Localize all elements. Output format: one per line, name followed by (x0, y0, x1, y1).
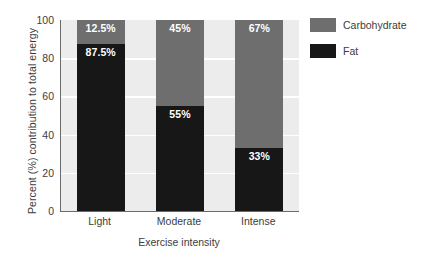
x-axis-title: Exercise intensity (60, 236, 298, 248)
bar-segment-value-label: 33% (235, 151, 283, 163)
bar-segment-fat: 55% (156, 106, 204, 211)
chart-figure: Percent (%) contribution to total energy… (0, 0, 423, 258)
bar-segment-value-label: 45% (156, 23, 204, 35)
bar-segment-fat: 87.5% (77, 44, 125, 211)
bar-segment-value-label: 12.5% (77, 23, 125, 35)
bar-segment-carbohydrate: 12.5% (77, 20, 125, 44)
bar-group: 12.5% 87.5% 45% 55% 67% 33% (61, 20, 299, 211)
y-axis-tick-labels: 100 80 60 40 20 0 (24, 0, 54, 258)
y-tick-label: 20 (24, 168, 54, 179)
x-tick-label-light: Light (62, 215, 138, 227)
y-tick-label: 100 (24, 15, 54, 26)
y-tick-label: 80 (24, 53, 54, 64)
plot-area: 12.5% 87.5% 45% 55% 67% 33% (60, 20, 299, 212)
stacked-bar-intense: 67% 33% (235, 20, 283, 211)
bar-segment-fat: 33% (235, 148, 283, 211)
y-tick-label: 0 (24, 206, 54, 217)
bar-segment-value-label: 87.5% (77, 47, 125, 59)
bar-segment-carbohydrate: 67% (235, 20, 283, 148)
x-axis-tick-labels: Light Moderate Intense (60, 215, 298, 231)
y-tick-label: 40 (24, 129, 54, 140)
x-tick-label-moderate: Moderate (141, 215, 217, 227)
stacked-bar-light: 12.5% 87.5% (77, 20, 125, 211)
bar-segment-value-label: 67% (235, 23, 283, 35)
legend-label-fat: Fat (343, 45, 358, 57)
bar-segment-value-label: 55% (156, 109, 204, 121)
legend-swatch-carbohydrate (310, 18, 336, 32)
legend-item-carbohydrate: Carbohydrate (310, 18, 420, 32)
legend-label-carbohydrate: Carbohydrate (343, 19, 407, 31)
stacked-bar-moderate: 45% 55% (156, 20, 204, 211)
chart-legend: Carbohydrate Fat (310, 18, 420, 70)
bar-segment-carbohydrate: 45% (156, 20, 204, 106)
legend-swatch-fat (310, 44, 336, 58)
legend-item-fat: Fat (310, 44, 420, 58)
x-tick-label-intense: Intense (220, 215, 296, 227)
y-tick-label: 60 (24, 91, 54, 102)
